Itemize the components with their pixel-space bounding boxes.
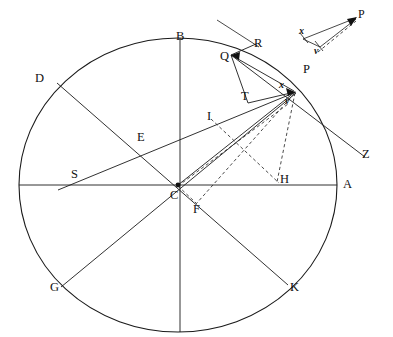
inset-vector-triangle: [300, 17, 357, 52]
ray-through-r-upper-left: [217, 20, 259, 47]
label-v-inset: v: [314, 46, 318, 56]
label-x-inset: x: [299, 26, 304, 36]
label-d: D: [35, 72, 44, 85]
chord-s-to-p: [58, 92, 296, 190]
label-s: S: [71, 168, 78, 181]
label-c: C: [170, 189, 178, 202]
label-g: G: [50, 281, 59, 294]
diameter-g-p: [61, 93, 296, 287]
label-x-main: x: [279, 80, 284, 90]
segment-q-r: [231, 44, 256, 55]
label-b: B: [176, 30, 184, 43]
label-z: Z: [362, 148, 370, 161]
label-f: F: [193, 203, 200, 216]
label-k: K: [290, 281, 299, 294]
label-e: E: [137, 131, 145, 144]
label-r: R: [254, 37, 262, 50]
geometric-figure: — —— — —— — —— —— — —— — —: [0, 0, 393, 337]
label-h: H: [280, 173, 289, 186]
inset-upper-ray: [303, 18, 356, 39]
label-p-inset: P: [358, 8, 365, 20]
label-v-main: v: [285, 96, 289, 106]
diameter-d-k: [57, 83, 288, 285]
label-p: P: [303, 63, 310, 76]
label-i: I: [207, 110, 211, 123]
label-a: A: [343, 178, 352, 191]
segment-c-p: [178, 92, 295, 185]
label-t: T: [241, 90, 249, 103]
label-q: Q: [220, 50, 229, 63]
center-point-c-dot: [176, 183, 181, 188]
